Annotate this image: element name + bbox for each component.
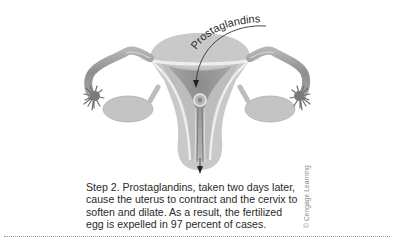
caption-line-1: Step 2. Prostaglandins, taken two days l… bbox=[86, 181, 296, 193]
caption-line-2: cause the uterus to contract and the cer… bbox=[86, 193, 296, 205]
fertilized-egg bbox=[194, 94, 206, 106]
figure-caption: Step 2. Prostaglandins, taken two days l… bbox=[86, 181, 296, 230]
left-ovary bbox=[103, 87, 158, 122]
uterus-body bbox=[140, 33, 260, 170]
copyright-credit: © Cengage Learning bbox=[303, 165, 310, 228]
dotted-divider bbox=[4, 236, 390, 237]
right-ovary bbox=[240, 87, 295, 122]
caption-line-3: soften and dilate. As a result, the fert… bbox=[86, 206, 296, 218]
left-fallopian-tube bbox=[88, 50, 150, 96]
left-fimbriae bbox=[84, 86, 104, 110]
caption-line-4: egg is expelled in 97 percent of cases. bbox=[86, 218, 296, 230]
uterus-diagram: Prostaglandins Step 2. Prostaglandins, t… bbox=[0, 0, 394, 244]
